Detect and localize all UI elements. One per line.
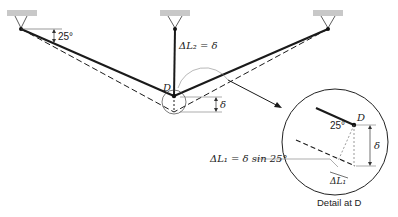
detail-angle-label: 25° bbox=[330, 120, 345, 131]
delta-l1-equation: ΔL₁ = δ sin 25° bbox=[210, 153, 287, 164]
left-support bbox=[7, 10, 37, 28]
joint-d-label: D bbox=[163, 82, 171, 93]
right-support bbox=[313, 10, 343, 28]
delta-l2-label: ΔL₂ = δ bbox=[179, 40, 218, 51]
delta-small-label: δ bbox=[220, 99, 226, 110]
detail-d-label: D bbox=[357, 112, 365, 123]
detail-delta-label: δ bbox=[374, 140, 380, 151]
angle-label-25: 25° bbox=[58, 31, 73, 42]
delta-l1-label: ΔL₁ bbox=[330, 176, 346, 186]
center-support bbox=[160, 10, 190, 28]
detail-caption: Detail at D bbox=[317, 197, 361, 208]
joint-d-pin bbox=[172, 94, 176, 98]
